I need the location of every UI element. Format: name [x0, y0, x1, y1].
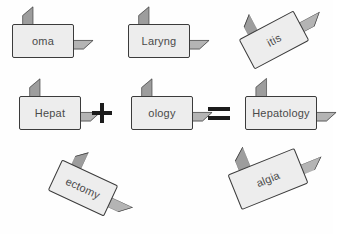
word-block-itis[interactable]: itis [239, 10, 310, 69]
plus-operator-icon: + [92, 103, 112, 123]
block-label: algia [255, 169, 282, 188]
plus-vertical-bar [100, 103, 104, 123]
block-label: ology [148, 108, 175, 119]
word-block-laryng[interactable]: Laryng [128, 24, 190, 58]
word-block-ology[interactable]: ology [131, 96, 193, 130]
block-front-face: oma [12, 24, 74, 58]
block-label: oma [32, 36, 54, 47]
word-block-hepat[interactable]: Hepat [19, 96, 81, 130]
block-label: Hepat [35, 108, 65, 119]
word-block-oma[interactable]: oma [12, 24, 74, 58]
block-front-face: Hepat [19, 96, 81, 130]
equals-operator-icon: = [208, 107, 230, 120]
word-block-hepatology[interactable]: Hepatology [245, 96, 317, 130]
equals-top-bar [208, 107, 230, 111]
block-label: itis [265, 32, 283, 48]
block-front-face: ology [131, 96, 193, 130]
word-block-ectomy[interactable]: ectomy [48, 159, 119, 216]
block-label: ectomy [64, 175, 102, 200]
block-label: Laryng [142, 36, 177, 47]
block-front-face: ectomy [48, 159, 119, 216]
word-block-algia[interactable]: algia [228, 148, 309, 210]
block-label: Hepatology [252, 108, 310, 119]
block-front-face: Hepatology [245, 96, 317, 130]
block-front-face: Laryng [128, 24, 190, 58]
equals-bottom-bar [208, 116, 230, 120]
